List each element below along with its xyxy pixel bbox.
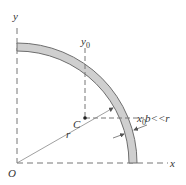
y0-label-sub: 0 bbox=[86, 41, 90, 50]
quarter-ring-diagram: y x O C y0 x0 r b<<r bbox=[0, 0, 186, 185]
x-axis-label: x bbox=[169, 157, 175, 169]
centroid-point bbox=[83, 116, 87, 120]
radius-label: r bbox=[66, 128, 71, 140]
y-axis-label: y bbox=[12, 10, 18, 22]
y0-label: y0 bbox=[80, 35, 90, 50]
centroid-label: C bbox=[73, 118, 81, 130]
thickness-arrow-inner bbox=[113, 134, 124, 138]
quarter-ring bbox=[17, 43, 137, 163]
origin-label: O bbox=[8, 167, 16, 179]
thickness-label: b<<r bbox=[145, 112, 170, 124]
radius-line bbox=[17, 108, 113, 163]
